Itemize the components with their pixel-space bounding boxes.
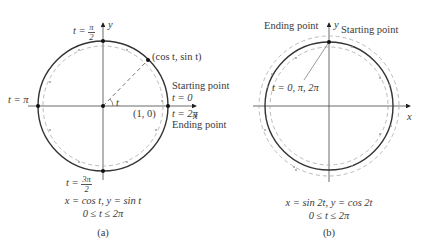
starting-point-label-a: Starting point: [172, 81, 229, 92]
t-values-label-b: t = 0, π, 2π: [272, 83, 319, 94]
caption-b: (b): [309, 226, 349, 239]
radius-line: [103, 60, 148, 106]
panel-b-graph: [253, 23, 410, 182]
fraction: 3π2: [81, 175, 92, 193]
x-axis-label-b: x: [407, 112, 412, 123]
t-equals: t =: [66, 177, 81, 188]
start-end-point-b: [327, 40, 331, 44]
y-axis-label-a: y: [108, 20, 113, 31]
denominator: 2: [88, 33, 94, 42]
fraction: π2: [88, 23, 94, 41]
starting-point-label-b: Starting point: [341, 25, 398, 36]
t-2pi-label: t = 2π: [172, 109, 198, 120]
denominator: 2: [81, 185, 92, 194]
equation-b: x = sin 2t, y = cos 2t: [264, 196, 394, 209]
t-pi-over-2-label: t = π2: [73, 23, 95, 41]
t-zero-label: t = 0: [172, 93, 193, 104]
range-a: 0 ≤ t ≤ 2π: [43, 207, 163, 220]
one-zero-label: (1, 0): [133, 109, 156, 120]
y-axis-label-b: y: [334, 20, 339, 31]
panel-a-graph: [28, 23, 196, 180]
t-pi-label: t = π: [8, 95, 29, 106]
ending-point-label-b: Ending point: [264, 21, 319, 32]
point-label: (cos t, sin t): [152, 52, 202, 63]
t-3pi-over-2-label: t = 3π2: [66, 175, 92, 193]
angle-arc: [110, 99, 113, 106]
range-b: 0 ≤ t ≤ 2π: [264, 209, 394, 222]
caption-a: (a): [83, 226, 123, 239]
t-equals: t =: [73, 25, 88, 36]
equation-a: x = cos t, y = sin t: [43, 194, 163, 207]
angle-t-label: t: [116, 98, 119, 109]
ending-point-label-a: Ending point: [172, 120, 227, 131]
pointer-line-b: [304, 42, 329, 80]
